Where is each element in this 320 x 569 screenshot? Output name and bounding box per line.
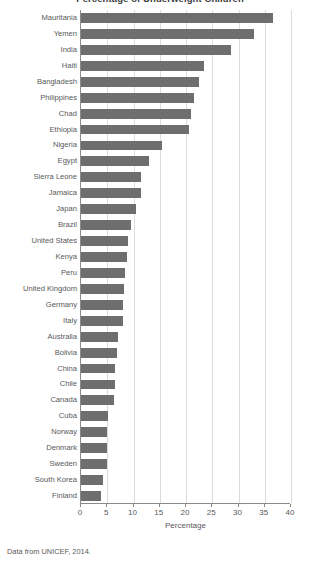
bar	[81, 459, 107, 469]
bar	[81, 491, 101, 501]
y-axis-label: Haiti	[0, 62, 77, 70]
x-axis-tick-label: 40	[286, 508, 295, 517]
tick-mark	[159, 504, 160, 507]
bar	[81, 411, 108, 421]
bar	[81, 61, 204, 71]
bar-row	[81, 380, 290, 390]
bar-row	[81, 125, 290, 135]
y-axis-label: Cuba	[0, 412, 77, 420]
tick-mark	[133, 504, 134, 507]
bar-row	[81, 220, 290, 230]
y-axis-label: United Kingdom	[0, 285, 77, 293]
y-axis-label: China	[0, 365, 77, 373]
bar	[81, 475, 103, 485]
y-axis-label: Chad	[0, 110, 77, 118]
bar-row	[81, 491, 290, 501]
y-axis-label: Finland	[0, 492, 77, 500]
x-axis-tick-label: 30	[233, 508, 242, 517]
bar	[81, 268, 125, 278]
x-axis-tick-label: 20	[181, 508, 190, 517]
bar-row	[81, 284, 290, 294]
bar	[81, 77, 199, 87]
bar	[81, 316, 123, 326]
bar	[81, 45, 231, 55]
bar-row	[81, 411, 290, 421]
y-axis-label: Denmark	[0, 444, 77, 452]
y-axis-label: Sierra Leone	[0, 173, 77, 181]
y-axis-label: India	[0, 46, 77, 54]
figure: Percentage of Underweight Children Mauri…	[0, 0, 320, 569]
y-axis-label: Jamaica	[0, 189, 77, 197]
y-axis-label: Nigeria	[0, 141, 77, 149]
bar	[81, 220, 131, 230]
y-axis-label: Sweden	[0, 460, 77, 468]
tick-mark	[80, 504, 81, 507]
bar-row	[81, 443, 290, 453]
bar	[81, 204, 136, 214]
tick-mark	[238, 504, 239, 507]
bar-row	[81, 427, 290, 437]
y-axis-label: Mauritania	[0, 14, 77, 22]
plot-area	[80, 10, 290, 504]
bar	[81, 364, 115, 374]
bar-row	[81, 316, 290, 326]
bar	[81, 29, 254, 39]
bar-row	[81, 77, 290, 87]
y-axis-label: Australia	[0, 333, 77, 341]
bar-row	[81, 204, 290, 214]
y-axis-label: Chile	[0, 380, 77, 388]
bar-row	[81, 156, 290, 166]
bar-row	[81, 268, 290, 278]
bar-row	[81, 45, 290, 55]
tick-mark	[290, 504, 291, 507]
bar-row	[81, 29, 290, 39]
bar-row	[81, 109, 290, 119]
y-axis-label: Norway	[0, 428, 77, 436]
x-axis-tick-label: 25	[207, 508, 216, 517]
tick-mark	[185, 504, 186, 507]
bar-row	[81, 141, 290, 151]
y-axis-label: Canada	[0, 396, 77, 404]
bar	[81, 236, 128, 246]
y-axis-label: Philippines	[0, 94, 77, 102]
y-axis-label: Yemen	[0, 30, 77, 38]
bar-row	[81, 348, 290, 358]
bar-row	[81, 395, 290, 405]
chart-title: Percentage of Underweight Children	[0, 0, 320, 4]
bar	[81, 348, 117, 358]
y-axis-label: Japan	[0, 205, 77, 213]
y-axis-label: South Korea	[0, 476, 77, 484]
y-axis-label: Ethiopia	[0, 126, 77, 134]
bar-row	[81, 252, 290, 262]
tick-mark	[211, 504, 212, 507]
bar	[81, 172, 141, 182]
bar-row	[81, 475, 290, 485]
bar-row	[81, 172, 290, 182]
bar-row	[81, 364, 290, 374]
bar	[81, 284, 124, 294]
bar	[81, 188, 141, 198]
bar	[81, 13, 273, 23]
bar-row	[81, 459, 290, 469]
y-axis-label: Bolivia	[0, 349, 77, 357]
tick-mark	[106, 504, 107, 507]
x-axis-tick-label: 35	[259, 508, 268, 517]
y-axis-label: United States	[0, 237, 77, 245]
bar	[81, 141, 162, 151]
y-axis-label: Italy	[0, 317, 77, 325]
bar	[81, 156, 149, 166]
bar	[81, 395, 114, 405]
bar	[81, 332, 118, 342]
x-axis-tick-label: 5	[104, 508, 108, 517]
y-axis-labels: MauritaniaYemenIndiaHaitiBangladeshPhili…	[0, 10, 77, 504]
y-axis-label: Germany	[0, 301, 77, 309]
y-axis-label: Kenya	[0, 253, 77, 261]
x-axis-tick-label: 15	[154, 508, 163, 517]
y-axis-label: Brazil	[0, 221, 77, 229]
bar	[81, 93, 194, 103]
bar	[81, 252, 127, 262]
bar-series	[81, 10, 290, 503]
y-axis-label: Bangladesh	[0, 78, 77, 86]
x-axis-tick-label: 0	[78, 508, 82, 517]
bar-row	[81, 93, 290, 103]
